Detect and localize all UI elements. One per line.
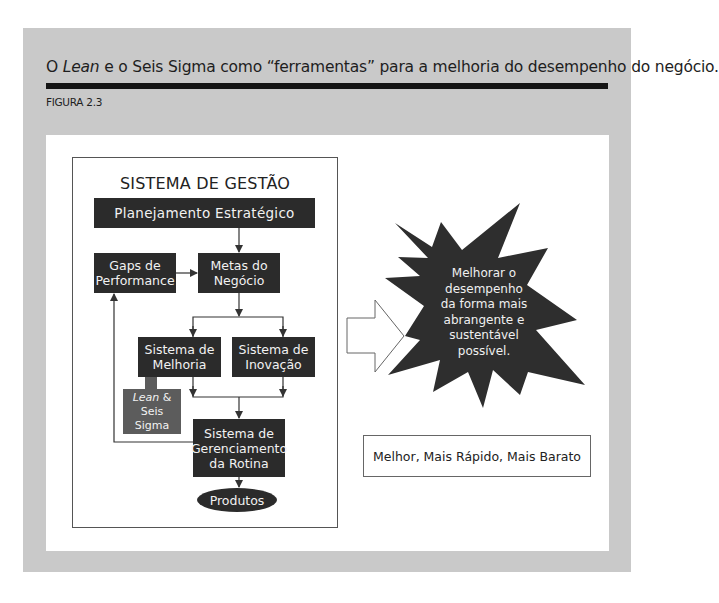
node-gerenciamento-rotina: Sistema de Gerenciamento da Rotina <box>193 419 285 477</box>
split-line <box>193 317 283 337</box>
rotina-label-1: Sistema de <box>204 426 274 441</box>
merge-line <box>193 377 283 397</box>
inovacao-label-1: Sistema de <box>239 342 309 357</box>
planejamento-label: Planejamento Estratégico <box>114 206 294 221</box>
gaps-label-2: Performance <box>95 273 174 288</box>
node-sistema-inovacao: Sistema de Inovação <box>232 337 315 377</box>
star-line-5: sustentável <box>432 328 536 344</box>
hollow-arrow-icon <box>347 300 404 372</box>
motto-text: Melhor, Mais Rápido, Mais Barato <box>373 449 581 464</box>
starburst-text: Melhorar o desempenho da forma mais abra… <box>432 266 536 359</box>
node-metas-negocio: Metas do Negócio <box>198 253 280 293</box>
lean-label-2: Seis Sigma <box>123 405 181 433</box>
star-line-3: da forma mais <box>432 297 536 313</box>
node-gaps-performance: Gaps de Performance <box>94 253 176 293</box>
star-line-2: desempenho <box>432 282 536 298</box>
melhoria-label-2: Melhoria <box>153 357 207 372</box>
inovacao-label-2: Inovação <box>245 357 302 372</box>
lean-label-1: Lean & <box>133 391 172 405</box>
metas-label-1: Metas do <box>210 258 267 273</box>
gaps-label-1: Gaps de <box>109 258 160 273</box>
motto-box: Melhor, Mais Rápido, Mais Barato <box>363 435 591 477</box>
melhoria-label-1: Sistema de <box>145 342 215 357</box>
produtos-label: Produtos <box>210 493 265 508</box>
star-line-6: possível. <box>432 344 536 360</box>
metas-label-2: Negócio <box>214 273 265 288</box>
rotina-label-3: da Rotina <box>209 456 268 471</box>
node-planejamento-estrategico: Planejamento Estratégico <box>94 198 315 228</box>
lean-italic: Lean <box>133 391 160 404</box>
lean-ampersand: & <box>159 391 171 404</box>
star-line-1: Melhorar o <box>432 266 536 282</box>
star-line-4: abrangente e <box>432 313 536 329</box>
node-produtos: Produtos <box>197 488 277 512</box>
node-lean-seis-sigma: Lean & Seis Sigma <box>123 389 181 434</box>
rotina-label-2: Gerenciamento <box>191 441 287 456</box>
node-sistema-melhoria: Sistema de Melhoria <box>138 337 221 377</box>
